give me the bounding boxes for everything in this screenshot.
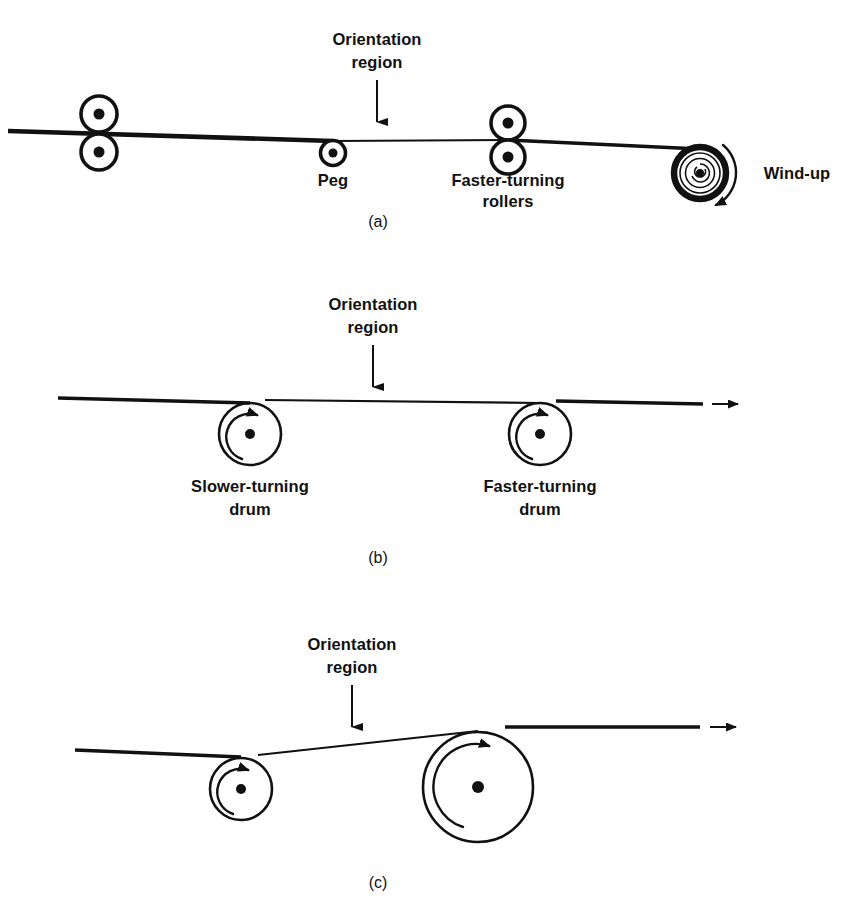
- panel-a-web-orientation-zone: [333, 140, 508, 141]
- panel-a-windup-package: Wind-up: [674, 145, 830, 205]
- panel-c-orientation-annotation: Orientation region: [307, 635, 396, 727]
- panel-b: Orientation region Slower-turning drum: [58, 295, 738, 566]
- panel-b-faster-drum-label-line2: drum: [519, 500, 561, 518]
- panel-a-faster-roller-bottom-axle: [503, 152, 514, 163]
- panel-a-feed-roller-top-axle: [94, 109, 105, 120]
- panel-a-faster-roller-pair: Faster-turning rollers: [451, 106, 564, 210]
- panel-b-orientation-label-line1: Orientation: [328, 295, 417, 313]
- panel-b-web-orientation-zone: [265, 400, 540, 403]
- panel-a-peg-axle: [329, 149, 338, 158]
- panel-a-feed-roller-bottom-axle: [94, 147, 105, 158]
- panel-b-slower-drum: Slower-turning drum: [191, 403, 309, 518]
- panel-a-web-entry: [8, 131, 333, 141]
- panel-a-faster-rollers-label-line1: Faster-turning: [451, 171, 564, 189]
- panel-c-orientation-label-line2: region: [326, 658, 377, 676]
- panel-c-large-drum: [423, 732, 533, 842]
- panel-c-web-entry: [75, 750, 241, 757]
- panel-c: Orientation region (c): [75, 635, 736, 891]
- panel-b-caption: (b): [368, 549, 388, 566]
- figure-canvas: Orientation region Peg: [0, 0, 855, 914]
- panel-b-faster-drum-axle: [535, 429, 545, 439]
- panel-a-orientation-annotation: Orientation region: [332, 30, 421, 122]
- panel-a-caption: (a): [368, 213, 388, 230]
- panel-c-small-drum: [210, 758, 272, 820]
- panel-a-faster-roller-top-axle: [503, 118, 514, 129]
- panel-a-orientation-label-line2: region: [351, 53, 402, 71]
- panel-a-windup-label: Wind-up: [764, 164, 831, 182]
- panel-b-orientation-label-line2: region: [347, 318, 398, 336]
- panel-c-caption: (c): [369, 874, 388, 891]
- panel-a: Orientation region Peg: [8, 30, 830, 230]
- panel-b-slower-drum-axle: [245, 429, 255, 439]
- panel-b-web-entry: [58, 398, 250, 403]
- panel-a-peg-label: Peg: [318, 171, 349, 189]
- panel-a-faster-rollers-label-line2: rollers: [482, 192, 533, 210]
- panel-a-peg: Peg: [318, 141, 349, 190]
- panel-a-windup-core: [696, 169, 704, 177]
- panel-b-slower-drum-label-line2: drum: [229, 500, 271, 518]
- panel-c-small-drum-axle: [236, 784, 246, 794]
- panel-b-slower-drum-label-line1: Slower-turning: [191, 477, 309, 495]
- panel-b-faster-drum: Faster-turning drum: [483, 403, 596, 518]
- panel-a-web-to-windup: [508, 140, 700, 149]
- panel-c-orientation-label-line1: Orientation: [307, 635, 396, 653]
- panel-c-large-drum-axle: [472, 781, 484, 793]
- diagram-svg: Orientation region Peg: [0, 0, 855, 914]
- panel-a-orientation-label-line1: Orientation: [332, 30, 421, 48]
- panel-b-faster-drum-label-line1: Faster-turning: [483, 477, 596, 495]
- panel-b-web-exit: [556, 401, 703, 404]
- panel-b-orientation-annotation: Orientation region: [328, 295, 417, 387]
